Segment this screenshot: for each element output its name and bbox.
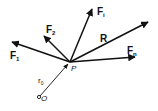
label-O: O — [41, 94, 47, 103]
label-Fn: Fn — [127, 45, 137, 57]
force-diagram: F1 F2 Fi R Fn P O r0 — [0, 0, 158, 111]
label-F1: F1 — [10, 50, 20, 62]
position-vector-r0 — [40, 64, 68, 96]
vector-Fi — [70, 9, 92, 62]
label-P: P — [71, 64, 77, 73]
label-R: R — [100, 33, 108, 44]
label-Fi: Fi — [97, 6, 105, 18]
label-F2: F2 — [46, 24, 56, 36]
vector-F1 — [12, 42, 70, 62]
label-r0: r0 — [38, 76, 44, 86]
